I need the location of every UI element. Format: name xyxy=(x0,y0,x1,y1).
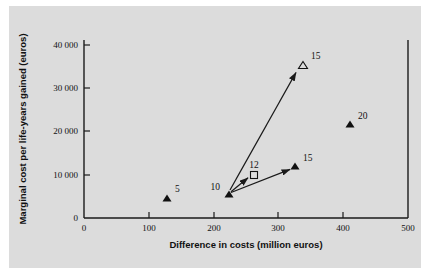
data-point-marker-15-lower xyxy=(291,163,300,170)
data-point-label-15-upper: 15 xyxy=(311,51,321,61)
data-point-marker-15-upper xyxy=(299,62,308,69)
y-tick-label-40000: 40 000 xyxy=(53,40,78,50)
x-tick-marks xyxy=(149,212,343,218)
y-tick-label-0: 0 xyxy=(74,213,79,223)
scatter-plot: 40 000 30 000 20 000 10 000 0 0 100 200 … xyxy=(0,0,429,276)
data-point-marker-12 xyxy=(251,172,258,179)
data-point-marker-20 xyxy=(346,121,355,128)
data-point-marker-5 xyxy=(163,195,172,202)
data-markers-group xyxy=(163,62,355,202)
arrows-group xyxy=(230,73,296,193)
x-tick-label-200: 200 xyxy=(207,223,221,233)
x-axis-title: Difference in costs (million euros) xyxy=(169,239,322,250)
y-tick-label-10000: 10 000 xyxy=(53,170,78,180)
y-tick-label-30000: 30 000 xyxy=(53,83,78,93)
data-point-label-5: 5 xyxy=(175,184,180,194)
x-tick-label-500: 500 xyxy=(401,223,415,233)
x-tick-label-0: 0 xyxy=(82,223,87,233)
y-axis-title: Marginal cost per life-years gained (eur… xyxy=(17,33,28,224)
arrow-10-to-15-upper xyxy=(230,73,296,191)
x-tick-label-300: 300 xyxy=(271,223,285,233)
chart-screenshot: 40 000 30 000 20 000 10 000 0 0 100 200 … xyxy=(0,0,429,276)
data-point-label-15-lower: 15 xyxy=(303,153,313,163)
data-point-label-10: 10 xyxy=(211,182,221,192)
x-tick-label-100: 100 xyxy=(142,223,156,233)
data-point-label-12: 12 xyxy=(249,160,259,170)
y-tick-label-20000: 20 000 xyxy=(53,126,78,136)
data-point-label-20: 20 xyxy=(358,111,368,121)
x-tick-label-400: 400 xyxy=(336,223,350,233)
y-tick-marks xyxy=(84,45,90,175)
